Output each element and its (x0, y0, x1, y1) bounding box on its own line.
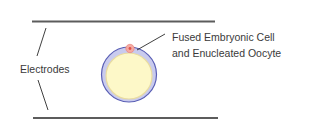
fused-cell-label-line2: and Enucleated Oocyte (172, 45, 281, 61)
electrode-pointer-upper (37, 28, 46, 56)
fused-cell-label-line1: Fused Embryonic Cell (172, 29, 281, 45)
electrode-pointer-lower (38, 80, 48, 110)
cell-pointer-line (137, 34, 165, 50)
electrodes-label: Electrodes (20, 61, 70, 77)
oocyte-cytoplasm (106, 53, 152, 99)
embryonic-cell (126, 44, 134, 52)
fused-cell-label: Fused Embryonic Cell and Enucleated Oocy… (172, 29, 281, 61)
enucleated-oocyte (102, 47, 157, 102)
embryonic-cell-nucleus (129, 47, 132, 50)
